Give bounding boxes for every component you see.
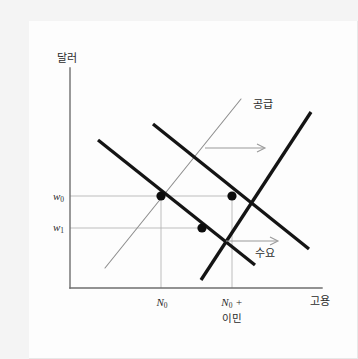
demand-shift-arrow [226, 237, 278, 245]
y-tick-label-w0: w0 [53, 190, 64, 205]
y-tick-w1-sub: 1 [60, 226, 64, 235]
x-tick-n0imm-main: N [221, 296, 228, 308]
equilibrium-point-e2 [197, 223, 206, 232]
equilibrium-point-e0 [156, 191, 165, 200]
demand-curve-shifted [153, 124, 309, 249]
x-axis-label: 고용 [310, 295, 330, 308]
x-tick-n0imm-line2: 이민 [205, 310, 259, 325]
demand-curve-label: 수요 [255, 247, 275, 260]
demand-curve-original [98, 140, 255, 265]
x-tick-n0imm-suffix: + [232, 296, 242, 308]
x-tick-label-n0: N0 [146, 296, 178, 310]
supply-demand-plot [0, 0, 358, 359]
equilibrium-point-e1 [227, 191, 236, 200]
y-axis-label: 달러 [57, 52, 77, 65]
y-tick-label-w1: w1 [53, 221, 64, 236]
guide-lines [70, 196, 232, 288]
x-tick-n0-main: N [156, 296, 163, 308]
supply-curve-original [105, 99, 241, 268]
axes [70, 68, 322, 288]
supply-shift-arrow [205, 144, 265, 152]
y-tick-w0-sub: 0 [60, 195, 64, 204]
supply-curve-label: 공급 [253, 98, 273, 111]
figure-canvas: 달러 고용 공급 수요 w0 w1 N0 N0 +이민 [0, 0, 358, 359]
x-tick-label-n0-plus-immigration: N0 +이민 [205, 296, 259, 325]
x-tick-n0-sub: 0 [164, 301, 168, 310]
